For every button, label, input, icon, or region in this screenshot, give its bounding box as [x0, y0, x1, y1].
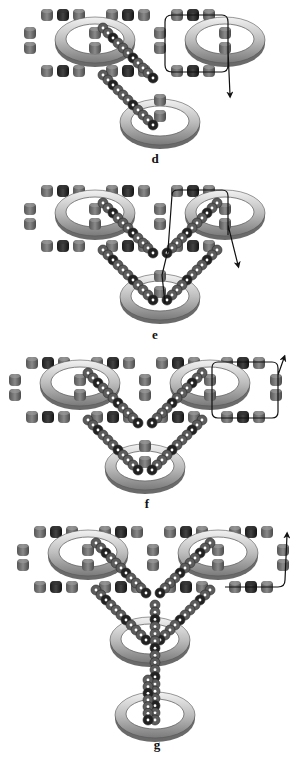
bead-icon — [270, 374, 282, 386]
bead-icon — [41, 185, 53, 197]
bead-icon — [41, 240, 53, 252]
bead-icon — [245, 526, 257, 538]
bead-icon — [34, 526, 46, 538]
bead-icon — [154, 94, 166, 106]
bead-icon — [138, 9, 150, 21]
bead-icon — [89, 218, 101, 230]
bead-icon — [131, 526, 143, 538]
bead-icon — [57, 240, 69, 252]
bead-icon — [253, 411, 265, 423]
panel-label-f: f — [145, 496, 150, 511]
bead-icon — [107, 411, 119, 423]
bead-icon — [187, 185, 199, 197]
bead-icon — [9, 389, 21, 401]
bead-icon — [26, 357, 38, 369]
bead-icon — [154, 203, 166, 215]
bead-icon — [212, 559, 224, 571]
bead-icon — [154, 218, 166, 230]
bead-icon — [24, 218, 36, 230]
bead-icon — [57, 9, 69, 21]
bead-icon — [122, 9, 134, 21]
bead-icon — [253, 357, 265, 369]
bead-icon — [154, 110, 166, 122]
bead-icon — [57, 185, 69, 197]
bead-icon — [139, 374, 151, 386]
panel-f: f — [9, 357, 284, 511]
panel-label-e: e — [152, 327, 158, 342]
bead-icon — [123, 357, 135, 369]
bead-icon — [172, 411, 184, 423]
bead-icon — [139, 440, 151, 452]
panel-e: e — [24, 185, 265, 342]
bead-icon — [115, 581, 127, 593]
bead-icon — [57, 65, 69, 77]
panel-g: g — [17, 526, 289, 752]
bead-icon — [82, 559, 94, 571]
bead-icon — [139, 389, 151, 401]
bead-icon — [24, 203, 36, 215]
bead-icon — [24, 27, 36, 39]
bead-icon — [171, 185, 183, 197]
panel-label-g: g — [154, 737, 161, 752]
bead-icon — [73, 65, 85, 77]
bead-icon — [221, 411, 233, 423]
bead-icon — [115, 526, 127, 538]
bead-icon — [171, 65, 183, 77]
bead-icon — [187, 240, 199, 252]
bead-icon — [24, 42, 36, 54]
bead-icon — [203, 65, 215, 77]
bead-icon — [154, 27, 166, 39]
bead-icon — [270, 389, 282, 401]
bead-chain — [143, 675, 153, 725]
bead-icon — [26, 411, 38, 423]
bead-icon — [164, 526, 176, 538]
bead-icon — [277, 544, 289, 556]
bead-icon — [58, 411, 70, 423]
bead-icon — [122, 185, 134, 197]
bead-icon — [219, 27, 231, 39]
bead-icon — [122, 65, 134, 77]
bead-icon — [187, 65, 199, 77]
bead-icon — [156, 357, 168, 369]
bead-icon — [73, 240, 85, 252]
bead-icon — [9, 374, 21, 386]
bead-icon — [89, 42, 101, 54]
bead-icon — [50, 581, 62, 593]
bead-icon — [237, 411, 249, 423]
panel-label-d: d — [151, 151, 159, 166]
bead-icon — [154, 42, 166, 54]
bead-icon — [66, 581, 78, 593]
panel-d: d — [24, 9, 265, 166]
bead-icon — [138, 185, 150, 197]
bead-icon — [261, 526, 273, 538]
bead-icon — [147, 544, 159, 556]
bead-icon — [41, 65, 53, 77]
bead-icon — [34, 581, 46, 593]
bead-icon — [17, 544, 29, 556]
bead-icon — [277, 559, 289, 571]
bead-icon — [42, 411, 54, 423]
bead-icon — [219, 42, 231, 54]
bead-icon — [204, 389, 216, 401]
bead-icon — [122, 240, 134, 252]
bead-icon — [147, 559, 159, 571]
bead-icon — [17, 559, 29, 571]
bead-icon — [41, 9, 53, 21]
bead-icon — [74, 389, 86, 401]
bead-icon — [154, 270, 166, 282]
bead-icon — [180, 581, 192, 593]
panels-layer: defg — [9, 9, 289, 752]
molecular-assembly-diagram: defg — [0, 0, 301, 765]
